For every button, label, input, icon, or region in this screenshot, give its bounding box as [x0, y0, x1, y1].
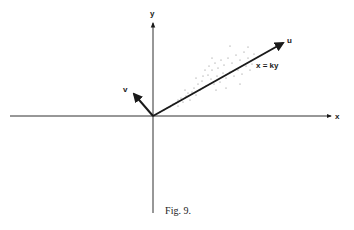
v-vector-label: v — [123, 85, 128, 94]
y-axis-label: y — [150, 9, 155, 18]
line-equation-label: x = ky — [256, 61, 279, 70]
u-vector — [153, 43, 283, 116]
diagram-canvas: y x u v x = ky — [0, 0, 354, 230]
v-vector — [134, 94, 153, 116]
x-axis-label: x — [335, 112, 340, 121]
u-vector-label: u — [287, 36, 292, 45]
figure-caption-container: Fig. 9. — [0, 205, 354, 216]
scatter-points — [160, 46, 255, 113]
figure-caption: Fig. 9. — [165, 205, 191, 216]
